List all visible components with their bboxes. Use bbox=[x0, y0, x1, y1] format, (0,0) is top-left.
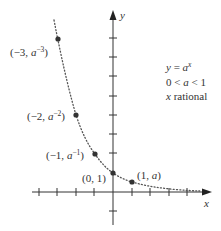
y-axis bbox=[109, 10, 117, 225]
point-1 bbox=[129, 179, 134, 184]
x-axis-arrow-icon bbox=[202, 189, 212, 196]
exponential-curve bbox=[54, 20, 200, 191]
diagram-canvas: y x (−3, a−3) (−2, a−2) (−1, a−1) (0, 1)… bbox=[0, 0, 221, 231]
exponential-decay-diagram: y x (−3, a−3) (−2, a−2) (−1, a−1) (0, 1)… bbox=[0, 0, 221, 231]
y-axis-arrow-icon bbox=[110, 10, 117, 20]
annotation-equation: y = ax bbox=[165, 60, 192, 73]
point-label-neg3: (−3, a−3) bbox=[10, 45, 48, 59]
x-axis-label: x bbox=[203, 197, 209, 209]
point-neg2 bbox=[73, 112, 78, 117]
point-neg3 bbox=[55, 36, 60, 41]
point-neg1 bbox=[92, 151, 97, 156]
x-axis bbox=[32, 188, 212, 196]
function-annotation: y = ax 0 < a < 1 x rational bbox=[165, 60, 207, 102]
annotation-domain: x rational bbox=[165, 90, 207, 102]
point-label-1: (1, a) bbox=[137, 169, 161, 182]
point-label-neg1: (−1, a−1) bbox=[46, 148, 84, 162]
annotation-constraint: 0 < a < 1 bbox=[166, 76, 206, 88]
point-label-0: (0, 1) bbox=[82, 172, 106, 185]
point-0 bbox=[110, 170, 115, 175]
data-points bbox=[55, 36, 134, 184]
y-axis-label: y bbox=[119, 9, 125, 21]
point-label-neg2: (−2, a−2) bbox=[27, 109, 65, 123]
